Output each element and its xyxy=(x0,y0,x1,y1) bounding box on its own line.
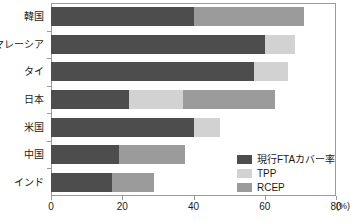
y-axis-tick xyxy=(47,113,52,114)
x-axis-tick xyxy=(51,196,52,200)
bar-segment-tpp xyxy=(129,90,182,109)
bar-segment-current-fta xyxy=(51,90,129,109)
y-axis-tick xyxy=(47,31,52,32)
y-axis-label-2: タイ xyxy=(24,62,44,81)
bar-row xyxy=(51,118,220,137)
y-axis-tick xyxy=(47,141,52,142)
bar-segment-rcep xyxy=(119,145,185,164)
y-axis-label-6: インド xyxy=(14,173,44,192)
y-axis-label-3: 日本 xyxy=(24,90,44,109)
legend-item-0[interactable]: 現行FTAカバー率 xyxy=(237,152,333,166)
x-axis-tick xyxy=(194,196,195,200)
x-axis-unit-label: (%) xyxy=(336,201,350,211)
bar-segment-tpp xyxy=(254,62,288,81)
x-axis-tick xyxy=(336,196,337,200)
chart-legend: 現行FTAカバー率TPPRCEP xyxy=(237,152,333,194)
bar-segment-rcep xyxy=(183,90,276,109)
x-axis-tick xyxy=(265,196,266,200)
y-axis-label-0: 韓国 xyxy=(24,7,44,26)
legend-swatch-icon xyxy=(237,169,252,178)
bar-row xyxy=(51,90,275,109)
x-axis-tick-label-3: 60 xyxy=(259,201,270,212)
bar-segment-current-fta xyxy=(51,173,112,192)
bar-segment-current-fta xyxy=(51,118,194,137)
x-axis-tick-labels: 020406080 xyxy=(0,201,359,217)
bar-segment-current-fta xyxy=(51,35,265,54)
bar-row xyxy=(51,35,295,54)
bar-segment-rcep xyxy=(112,173,155,192)
y-axis-tick xyxy=(47,168,52,169)
y-axis-category-labels: 韓国マレーシアタイ日本米国中国インド xyxy=(0,3,48,196)
legend-label: TPP xyxy=(257,167,276,181)
legend-swatch-icon xyxy=(237,155,252,164)
bar-segment-current-fta xyxy=(51,7,194,26)
bar-segment-current-fta xyxy=(51,62,254,81)
bar-row xyxy=(51,173,154,192)
bar-segment-tpp xyxy=(194,118,221,137)
legend-label: RCEP xyxy=(257,181,285,195)
bar-row xyxy=(51,62,288,81)
bar-row xyxy=(51,7,304,26)
stacked-bar-chart: 韓国マレーシアタイ日本米国中国インド 020406080 (%) 現行FTAカバ… xyxy=(0,0,359,223)
y-axis-label-5: 中国 xyxy=(24,145,44,164)
y-axis-tick xyxy=(47,86,52,87)
legend-item-2[interactable]: RCEP xyxy=(237,180,333,194)
legend-item-1[interactable]: TPP xyxy=(237,166,333,180)
x-axis-tick xyxy=(122,196,123,200)
legend-label: 現行FTAカバー率 xyxy=(257,153,335,167)
x-axis-tick-label-0: 0 xyxy=(48,201,54,212)
bar-segment-rcep xyxy=(194,7,304,26)
y-axis-label-1: マレーシア xyxy=(0,35,44,54)
bar-segment-current-fta xyxy=(51,145,119,164)
x-axis-tick-label-2: 40 xyxy=(188,201,199,212)
y-axis-label-4: 米国 xyxy=(24,118,44,137)
y-axis-tick xyxy=(47,58,52,59)
bar-segment-tpp xyxy=(265,35,295,54)
x-axis-tick-label-1: 20 xyxy=(117,201,128,212)
bar-row xyxy=(51,145,185,164)
legend-swatch-icon xyxy=(237,183,252,192)
